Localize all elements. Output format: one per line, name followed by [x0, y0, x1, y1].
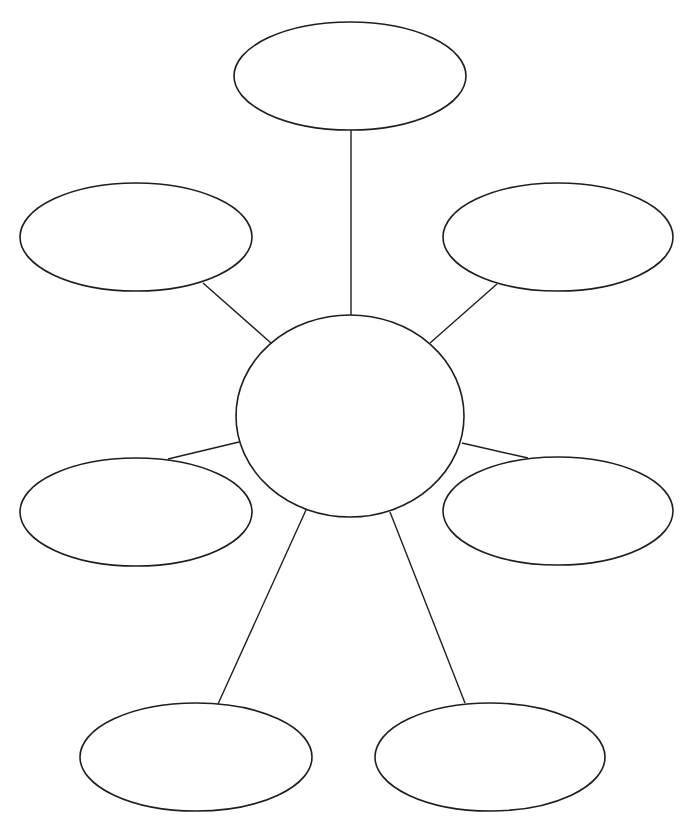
bubble-lower-left-shape[interactable] [20, 458, 252, 566]
center-bubble-shape[interactable] [236, 315, 464, 517]
bubble-lower-right[interactable] [443, 457, 673, 565]
connector-line-lower-right [462, 443, 528, 458]
connector-line-upper-right [430, 284, 497, 343]
connector-line-lower-left [168, 442, 239, 459]
bubble-upper-right[interactable] [443, 183, 673, 291]
bubble-bottom-right-shape[interactable] [375, 703, 605, 811]
bubble-nodes [20, 22, 673, 811]
bubble-bottom-left[interactable] [80, 703, 312, 811]
bubble-map-diagram [0, 0, 696, 834]
center-bubble[interactable] [236, 315, 464, 517]
bubble-upper-left-shape[interactable] [20, 183, 252, 291]
bubble-lower-right-shape[interactable] [443, 457, 673, 565]
bubble-upper-left[interactable] [20, 183, 252, 291]
bubble-bottom-right[interactable] [375, 703, 605, 811]
bubble-bottom-left-shape[interactable] [80, 703, 312, 811]
connector-line-bottom-right [390, 512, 465, 703]
bubble-top[interactable] [234, 22, 466, 130]
bubble-lower-left[interactable] [20, 458, 252, 566]
bubble-top-shape[interactable] [234, 22, 466, 130]
connector-line-upper-left [203, 283, 271, 343]
bubble-upper-right-shape[interactable] [443, 183, 673, 291]
